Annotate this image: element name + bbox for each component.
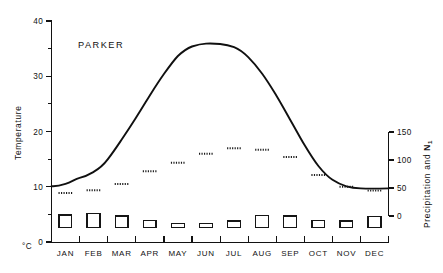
- n1-box-oct: [312, 220, 325, 227]
- right-tick-label-150: 150: [397, 128, 412, 137]
- month-label-sep: SEP: [281, 249, 299, 258]
- left-tick-label-0: 0: [38, 238, 43, 247]
- svg-text:Precipitation and N1: Precipitation and N1: [422, 140, 433, 228]
- month-label-dec: DEC: [365, 249, 384, 258]
- precipitation-markers: [59, 148, 382, 193]
- n1-box-jun: [200, 223, 213, 227]
- month-label-mar: MAR: [112, 249, 132, 258]
- left-axis-unit-label: °C: [22, 242, 32, 251]
- chart-canvas: 40 30 20 10 0 Temperature °C 150 100 50 …: [0, 0, 443, 273]
- month-label-feb: FEB: [85, 249, 103, 258]
- month-label-jul: JUL: [226, 249, 242, 258]
- month-labels: JAN FEB MAR APR MAY JUN JUL AUG SEP OCT …: [57, 249, 384, 258]
- n1-box-dec: [368, 216, 381, 227]
- right-axis-title-symbol: N: [422, 144, 432, 151]
- n1-box-sep: [284, 216, 297, 227]
- n1-box-nov: [340, 221, 353, 227]
- n1-box-markers: [59, 213, 381, 227]
- n1-box-mar: [115, 216, 128, 227]
- n1-box-may: [171, 223, 184, 227]
- n1-box-jul: [228, 221, 241, 227]
- n1-box-aug: [256, 215, 269, 227]
- right-tick-label-0: 0: [397, 212, 402, 221]
- month-label-oct: OCT: [309, 249, 328, 258]
- left-tick-label-30: 30: [33, 72, 43, 81]
- n1-box-jan: [59, 215, 72, 227]
- right-axis-title-symbol-sub: 1: [427, 140, 433, 144]
- climate-diagram-figure: 40 30 20 10 0 Temperature °C 150 100 50 …: [0, 0, 443, 273]
- right-tick-label-100: 100: [397, 156, 412, 165]
- right-axis-title-group: Precipitation and N1: [422, 140, 433, 228]
- month-label-aug: AUG: [252, 249, 272, 258]
- right-tick-label-50: 50: [397, 184, 407, 193]
- temperature-curve: [52, 44, 389, 189]
- month-label-may: MAY: [168, 249, 187, 258]
- left-tick-label-20: 20: [33, 128, 43, 137]
- left-axis-title: Temperature: [13, 105, 23, 160]
- right-axis-ticks: [389, 132, 395, 216]
- station-title: PARKER: [78, 40, 124, 50]
- month-label-apr: APR: [140, 249, 159, 258]
- n1-box-apr: [143, 220, 156, 227]
- month-label-jan: JAN: [57, 249, 74, 258]
- right-axis-tick-labels: 150 100 50 0: [397, 128, 412, 221]
- month-label-nov: NOV: [337, 249, 357, 258]
- left-tick-label-10: 10: [33, 183, 43, 192]
- month-label-jun: JUN: [197, 249, 215, 258]
- left-axis-tick-labels: 40 30 20 10 0: [33, 17, 43, 247]
- month-tick-marks: [52, 236, 389, 243]
- right-axis-title: Precipitation and: [422, 154, 432, 228]
- left-axis-major-ticks: [46, 21, 52, 242]
- left-tick-label-40: 40: [33, 17, 43, 26]
- n1-box-feb: [87, 213, 100, 227]
